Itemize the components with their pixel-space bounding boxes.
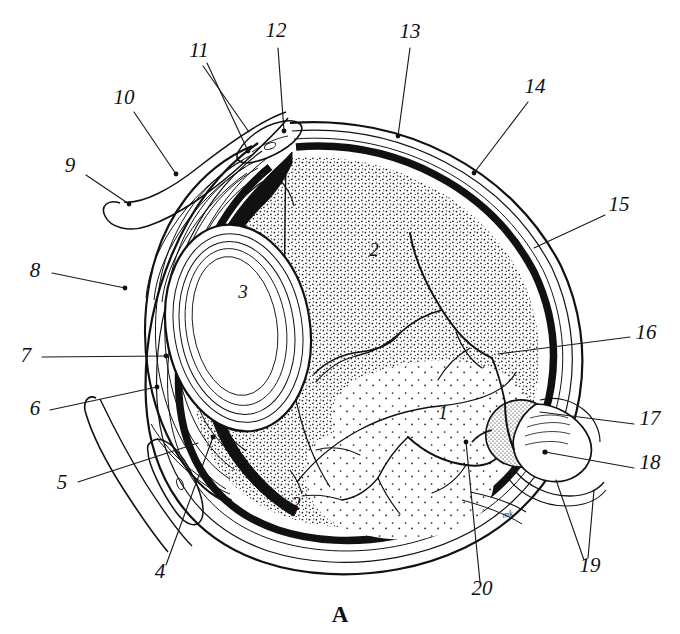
leader-13 bbox=[398, 48, 410, 136]
label-1: 1 bbox=[438, 402, 448, 423]
leader-dot-20 bbox=[464, 440, 469, 445]
lower-eyelid-outline bbox=[85, 397, 168, 552]
leader-11b bbox=[207, 63, 248, 151]
label-4: 4 bbox=[155, 559, 166, 583]
inferior-tarsal-gland bbox=[175, 477, 185, 490]
leader-8 bbox=[52, 273, 125, 288]
label-19: 19 bbox=[580, 553, 602, 577]
leader-dot-12 bbox=[282, 129, 287, 134]
leader-dot-10 bbox=[174, 172, 179, 177]
leader-dot-14 bbox=[472, 171, 477, 176]
artist-monogram: mk bbox=[502, 508, 515, 520]
leader-5 bbox=[78, 443, 198, 482]
label-17: 17 bbox=[640, 406, 663, 430]
leader-12 bbox=[278, 48, 284, 131]
label-16: 16 bbox=[636, 320, 658, 344]
leader-15 bbox=[534, 215, 605, 248]
leader-19a bbox=[556, 480, 584, 560]
leader-dot-18 bbox=[542, 449, 547, 454]
leader-11a bbox=[203, 66, 249, 132]
label-15: 15 bbox=[609, 192, 630, 216]
label-14: 14 bbox=[525, 74, 547, 98]
label-20: 20 bbox=[472, 576, 494, 600]
leader-14 bbox=[474, 102, 528, 173]
label-12: 12 bbox=[266, 18, 288, 42]
leader-dot-7 bbox=[164, 354, 169, 359]
label-2b: 2 bbox=[291, 493, 301, 514]
optic-nerve-trunk bbox=[513, 404, 591, 482]
label-18: 18 bbox=[640, 450, 662, 474]
leader-19b bbox=[588, 490, 594, 558]
leader-dot-11 bbox=[246, 149, 251, 154]
label-10: 10 bbox=[114, 85, 136, 109]
label-6: 6 bbox=[30, 396, 41, 420]
label-3: 3 bbox=[237, 281, 248, 302]
label-11: 11 bbox=[189, 38, 208, 62]
leader-9 bbox=[86, 175, 129, 204]
leader-10 bbox=[134, 112, 176, 174]
figure-caption: A bbox=[332, 602, 349, 627]
eye-cross-section-figure: mk bbox=[0, 0, 680, 634]
label-5: 5 bbox=[57, 470, 68, 494]
label-13: 13 bbox=[400, 19, 421, 43]
leader-dot-8 bbox=[123, 286, 128, 291]
leader-dot-9 bbox=[127, 202, 132, 207]
label-7: 7 bbox=[21, 343, 33, 367]
label-2a: 2 bbox=[369, 239, 379, 260]
leader-dot-4 bbox=[211, 435, 216, 440]
leader-dot-6 bbox=[155, 385, 160, 390]
label-9: 9 bbox=[65, 153, 76, 177]
leader-dot-13 bbox=[396, 134, 401, 139]
label-8: 8 bbox=[30, 258, 41, 282]
